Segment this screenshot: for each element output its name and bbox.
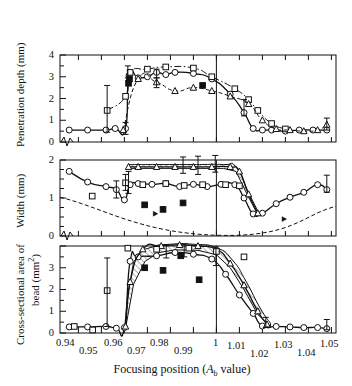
- datapoint-open-circle: [301, 325, 307, 331]
- datapoint-open-circle: [154, 253, 160, 259]
- datapoint-filled-square: [142, 265, 148, 271]
- datapoint-open-circle: [301, 189, 307, 195]
- datapoint-open-square: [200, 182, 206, 188]
- plot-svg: [0, 0, 352, 386]
- datapoint-open-circle: [113, 325, 119, 331]
- datapoint-open-circle: [112, 126, 118, 132]
- series-line-square-dashdot-line: [107, 66, 285, 129]
- datapoint-open-circle: [190, 70, 196, 76]
- datapoint-open-square: [209, 74, 215, 80]
- datapoint-open-circle: [223, 271, 229, 277]
- datapoint-open-square: [269, 121, 275, 127]
- datapoint-open-square: [223, 182, 229, 188]
- datapoint-open-square: [163, 64, 169, 70]
- datapoint-open-circle: [163, 72, 169, 78]
- datapoint-open-square: [237, 183, 243, 189]
- datapoint-open-circle: [287, 194, 293, 200]
- datapoint-open-circle: [273, 201, 279, 207]
- datapoint-filled-square: [142, 202, 148, 208]
- datapoint-open-square: [232, 86, 238, 92]
- datapoint-open-circle: [315, 182, 321, 188]
- figure-container: Penetration depth (mm) Width (mm) Cross-…: [0, 0, 352, 386]
- datapoint-open-circle: [127, 258, 133, 264]
- datapoint-open-circle: [149, 181, 155, 187]
- datapoint-open-circle: [85, 179, 91, 185]
- trend-arrow: [282, 217, 287, 222]
- datapoint-filled-square: [200, 83, 206, 89]
- datapoint-open-square: [125, 245, 131, 251]
- series-line-circle-solid-line: [69, 70, 327, 135]
- datapoint-filled-square: [160, 207, 166, 213]
- datapoint-open-square: [241, 254, 247, 260]
- datapoint-open-triangle: [172, 87, 178, 93]
- datapoint-open-square: [140, 182, 146, 188]
- datapoint-open-circle: [66, 168, 72, 174]
- datapoint-filled-square: [160, 268, 166, 274]
- datapoint-open-square: [89, 193, 95, 199]
- datapoint-open-circle: [103, 184, 109, 190]
- series-line-triangle-dashed-line: [123, 73, 327, 131]
- datapoint-open-square: [154, 246, 160, 252]
- datapoint-open-circle: [172, 69, 178, 75]
- datapoint-open-square: [181, 183, 187, 189]
- datapoint-open-circle: [121, 197, 127, 203]
- panel-frame-0: [60, 55, 336, 142]
- datapoint-open-circle: [315, 325, 321, 331]
- series-line-V-dashed-baseline: [60, 197, 336, 235]
- datapoint-open-square: [186, 245, 192, 251]
- series-line-circle-solid-line: [69, 171, 327, 216]
- datapoint-open-circle: [259, 127, 265, 133]
- datapoint-open-square: [163, 181, 169, 187]
- panel-frame-2: [60, 246, 336, 333]
- datapoint-open-circle: [287, 324, 293, 330]
- datapoint-filled-square: [178, 253, 184, 259]
- datapoint-open-square: [145, 66, 151, 72]
- datapoint-open-circle: [85, 127, 91, 133]
- datapoint-open-circle: [172, 250, 178, 256]
- datapoint-filled-square: [180, 200, 186, 206]
- datapoint-open-circle: [236, 292, 242, 298]
- datapoint-open-circle: [66, 127, 72, 133]
- datapoint-open-square: [90, 327, 96, 333]
- trend-arrow: [153, 211, 158, 216]
- datapoint-open-square: [123, 94, 129, 100]
- plot-layer: [60, 55, 336, 336]
- datapoint-open-circle: [209, 256, 215, 262]
- datapoint-filled-square: [196, 277, 202, 283]
- datapoint-open-triangle: [259, 117, 265, 123]
- datapoint-open-square: [191, 65, 197, 71]
- datapoint-open-square: [71, 324, 77, 330]
- datapoint-open-circle: [273, 323, 279, 329]
- datapoint-open-circle: [190, 181, 196, 187]
- datapoint-open-circle: [190, 251, 196, 257]
- datapoint-open-square: [255, 108, 261, 114]
- datapoint-open-circle: [250, 126, 256, 132]
